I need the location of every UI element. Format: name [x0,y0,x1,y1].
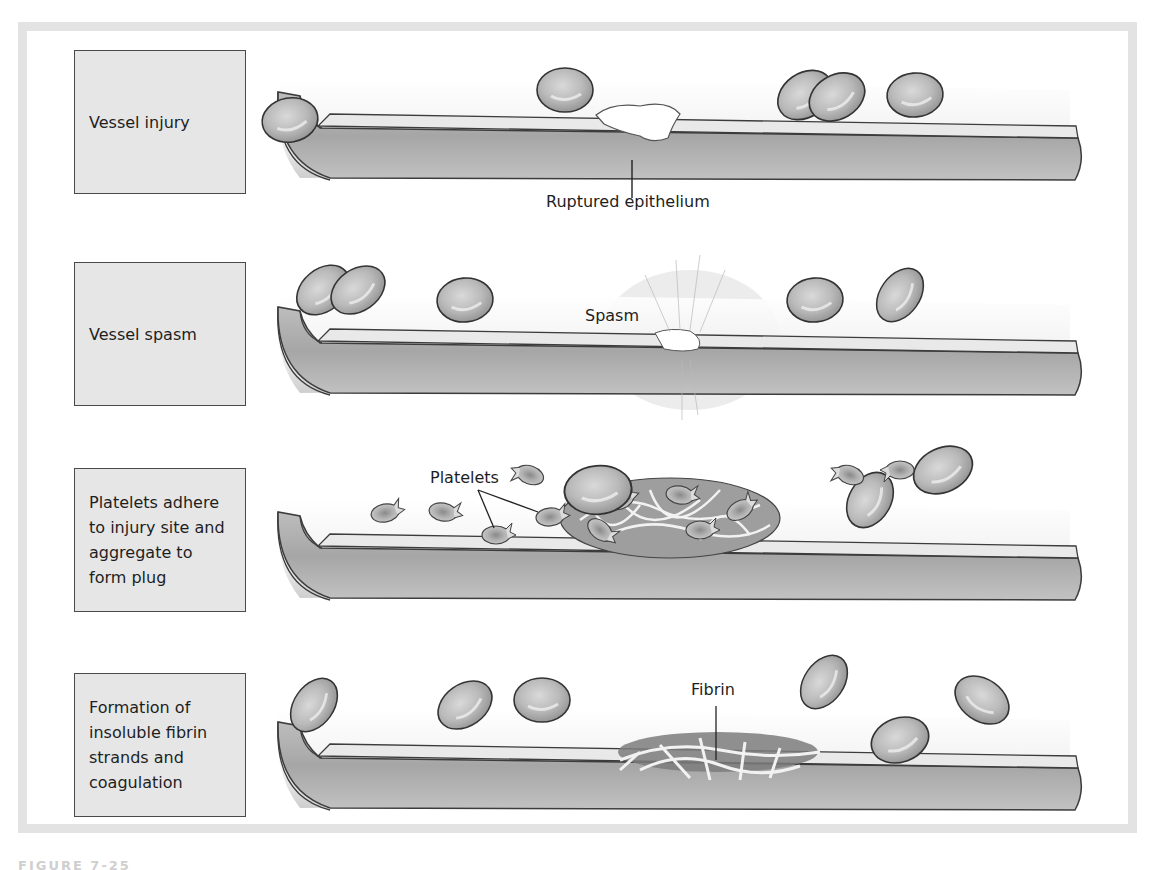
red-blood-cell [791,647,857,718]
red-blood-cell [537,68,593,112]
callout-fibrin: Fibrin [691,680,735,699]
callout-spasm: Spasm [585,306,639,325]
platelet [507,460,546,491]
figure-caption: FIGURE 7-25 [18,858,131,870]
callout-platelets: Platelets [430,468,499,487]
stage-vessel-spasm [278,294,1082,395]
hemostasis-illustration [0,0,1150,870]
callout-ruptured-epithelium: Ruptured epithelium [546,192,710,211]
platelet [880,461,914,482]
red-blood-cell [514,678,570,722]
red-blood-cell [906,437,980,503]
stage-vessel-injury [278,79,1082,180]
